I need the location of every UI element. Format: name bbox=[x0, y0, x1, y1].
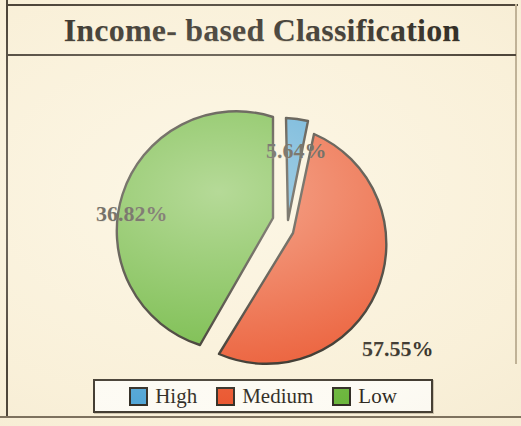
legend-label-medium: Medium bbox=[242, 386, 313, 407]
legend-swatch-high-icon bbox=[129, 387, 148, 406]
chart-title: Income- based Classification bbox=[64, 12, 461, 49]
legend-label-low: Low bbox=[358, 386, 397, 407]
legend-item-medium[interactable]: Medium bbox=[216, 386, 313, 407]
chart-legend: High Medium Low bbox=[93, 379, 433, 413]
legend-item-high[interactable]: High bbox=[129, 386, 197, 407]
legend-label-high: High bbox=[155, 386, 197, 407]
frame-border-bottom bbox=[0, 416, 521, 418]
data-label-medium: 57.55% bbox=[362, 336, 434, 362]
title-band: Income- based Classification bbox=[8, 6, 516, 54]
data-label-high: 5.64% bbox=[266, 138, 327, 164]
legend-swatch-low-icon bbox=[332, 387, 351, 406]
pie-chart-graphic bbox=[8, 56, 516, 416]
legend-swatch-medium-icon bbox=[216, 387, 235, 406]
data-label-low: 36.82% bbox=[96, 201, 168, 227]
pie-plot-area: 5.64% 36.82% 57.55% bbox=[8, 56, 516, 416]
legend-item-low[interactable]: Low bbox=[332, 386, 397, 407]
chart-figure: Income- based Classification 5.64% 36.82… bbox=[0, 0, 521, 426]
